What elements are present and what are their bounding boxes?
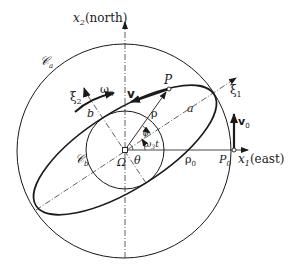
outer-circle-label: 𝒞a (40, 54, 53, 70)
point-p0 (232, 148, 236, 152)
orbit-diagram: x2(north) x1(east) ξ1 ξ2 𝒞a 𝒞b ω3 b a P … (0, 0, 288, 266)
theta-label: θ (134, 154, 141, 167)
point-p0-label: P0 (218, 153, 231, 168)
point-p-label: P (163, 73, 173, 87)
rho-label: ρ (151, 107, 157, 120)
omega3t-label: ω3t (144, 139, 159, 150)
velocity-v0-label: v0 (238, 115, 250, 130)
semi-major-label-a: a (187, 102, 194, 115)
rotation-label-omega3: ω3 (100, 83, 113, 98)
inner-circle-label: 𝒞b (75, 152, 89, 168)
xi1-axis-label: ξ1 (230, 83, 242, 99)
semi-minor-label-b: b (87, 107, 94, 120)
x2-axis-label: x2(north) (73, 11, 127, 27)
velocity-v-label: v (127, 87, 135, 101)
psi-label: ψ (142, 128, 150, 138)
xi2-axis-arrow (84, 88, 86, 94)
xi1-axis (36, 78, 236, 210)
rho0-label: ρ0 (185, 153, 196, 168)
xi2-axis-label: ξ2 (70, 90, 82, 106)
center-omega-label: Ω (116, 156, 126, 169)
point-p (167, 87, 171, 91)
x1-axis-label: x1(east) (238, 152, 284, 168)
center-point-omega (123, 148, 128, 153)
